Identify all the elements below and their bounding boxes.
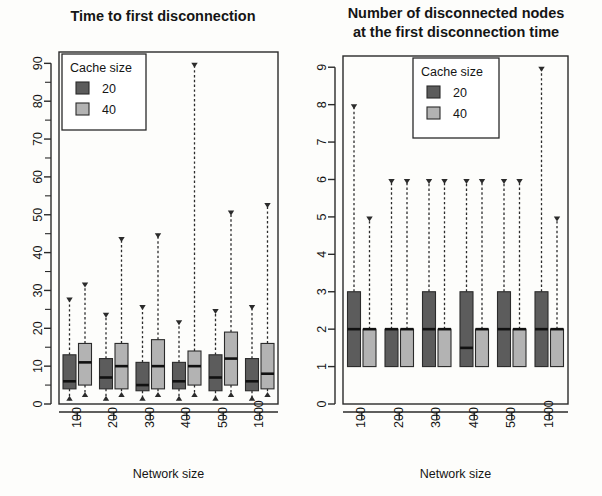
legend-title: Cache size [70,61,132,75]
x-tick-label: 400 [467,407,481,428]
whisker-cap-upper [404,179,410,184]
whisker-cap-lower [264,392,270,397]
boxplot-200-cache20 [100,313,113,401]
boxplot-400-cache40 [188,63,201,397]
whisker-cap-lower [155,392,161,397]
whisker-cap-upper [212,309,218,314]
x-axis-label: Network size [133,467,205,481]
y-tick-label: 9 [315,64,329,71]
x-tick-label: 500 [504,407,518,428]
boxplot-400-cache20 [460,179,473,367]
box-rect [152,340,165,389]
y-tick-label: 8 [315,101,329,108]
whisker-cap-upper [82,282,88,287]
chart-panel-time-to-first-disconnection: Time to first disconnection0102030405060… [0,0,301,496]
boxplot-200-cache40 [401,179,414,367]
y-tick-label: 20 [31,321,45,335]
whisker-cap-upper [538,67,544,72]
x-tick-label: 100 [70,407,84,428]
x-tick-label: 100 [354,407,368,428]
y-tick-label: 50 [31,208,45,222]
whisker-cap-upper [118,237,124,242]
y-tick-label: 4 [315,251,329,258]
boxplot-100-cache20 [348,104,361,367]
box-rect [173,362,186,388]
whisker-cap-lower [212,396,218,401]
y-axis: 0123456789 [315,64,335,408]
y-tick-label: 80 [31,94,45,108]
boxplot-400-cache40 [476,179,489,367]
boxplot-100-cache40 [79,282,92,397]
whisker-cap-upper [501,179,507,184]
legend-label-40: 40 [453,107,467,121]
legend: Cache size2040 [62,54,146,130]
boxplot-500-cache20 [498,179,511,367]
y-tick-label: 60 [31,170,45,184]
box-rect [551,329,564,366]
whisker-cap-upper [176,320,182,325]
y-axis: 0102030405060708090 [31,56,51,407]
x-tick-label: 300 [429,407,443,428]
legend-swatch-20 [427,86,440,98]
whisker-cap-upper [155,233,161,238]
boxplot-time-to-first-disconnection: Time to first disconnection0102030405060… [0,0,301,496]
whisker-cap-upper [66,298,72,303]
chart-title-line-2: at the first disconnection time [353,24,559,40]
whisker-cap-upper [264,203,270,208]
y-tick-label: 30 [31,283,45,297]
y-tick-label: 3 [315,288,329,295]
whisker-cap-lower [103,396,109,401]
whisker-cap-lower [176,396,182,401]
y-tick-label: 6 [315,176,329,183]
box-rect [246,359,259,391]
boxplot-300-cache20 [423,179,436,367]
whisker-cap-upper [463,179,469,184]
x-tick-label: 200 [106,407,120,428]
box-rect [385,329,398,366]
legend-label-20: 20 [453,86,467,100]
boxplot-500-cache40 [225,210,238,396]
box-rect [363,329,376,366]
whisker-cap-upper [228,210,234,215]
whisker-cap-upper [249,305,255,310]
y-tick-label: 10 [31,359,45,373]
legend-swatch-40 [76,103,89,115]
boxplot-1000-cache20 [535,67,548,367]
y-tick-label: 0 [31,400,45,407]
whisker-cap-lower [228,392,234,397]
legend-label-20: 20 [102,82,116,96]
whisker-cap-lower [139,396,145,401]
y-tick-label: 7 [315,139,329,146]
box-rect [476,329,489,366]
whisker-cap-upper [479,179,485,184]
y-tick-label: 70 [31,132,45,146]
box-rect [460,292,473,367]
legend: Cache size2040 [413,58,499,138]
legend-swatch-20 [76,82,89,94]
legend-title: Cache size [421,65,483,79]
y-tick-label: 0 [315,400,329,407]
x-tick-label: 500 [216,407,230,428]
whisker-cap-upper [351,104,357,109]
boxplot-500-cache40 [513,179,526,367]
whisker-cap-upper [103,313,109,318]
box-rect [401,329,414,366]
y-tick-label: 90 [31,56,45,70]
y-tick-label: 5 [315,213,329,220]
box-rect [100,359,113,389]
boxplot-100-cache20 [63,298,76,401]
whisker-cap-lower [118,392,124,397]
whisker-cap-upper [516,179,522,184]
box-rect [513,329,526,366]
box-rect [209,355,222,391]
y-tick-label: 1 [315,363,329,370]
whisker-cap-upper [388,179,394,184]
boxplot-300-cache40 [438,179,451,367]
x-axis-label: Network size [420,467,492,481]
boxplot-500-cache20 [209,309,222,401]
legend-label-40: 40 [102,103,116,117]
figure-container: Time to first disconnection0102030405060… [0,0,602,496]
y-tick-label: 40 [31,246,45,260]
x-tick-label: 200 [392,407,406,428]
whisker-cap-upper [366,216,372,221]
